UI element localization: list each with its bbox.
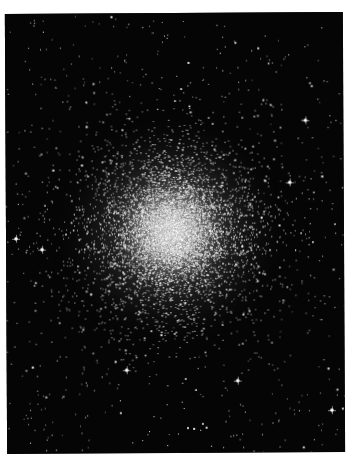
star-field	[5, 12, 345, 454]
globular-cluster-photo	[5, 12, 345, 454]
